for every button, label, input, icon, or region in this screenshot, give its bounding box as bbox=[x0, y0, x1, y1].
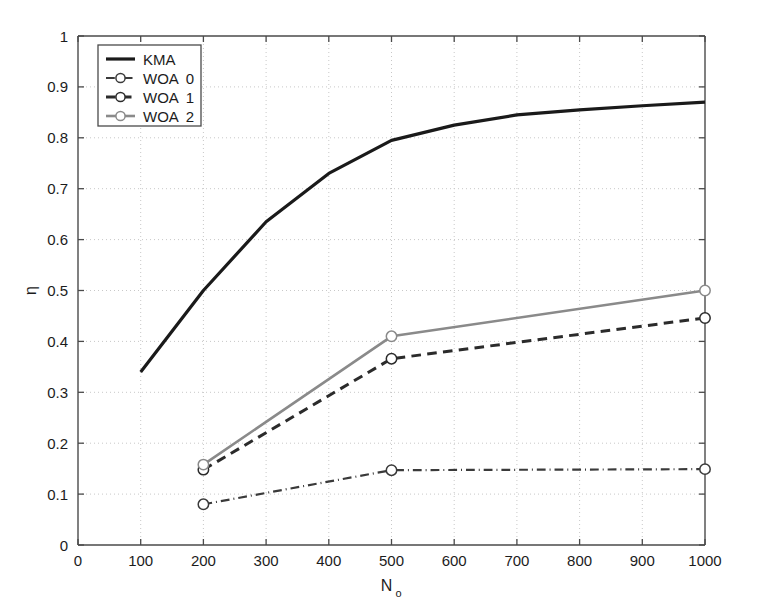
y-tick-label: 0.4 bbox=[47, 333, 68, 350]
y-axis-label-text: η bbox=[22, 286, 39, 295]
data-point-marker bbox=[198, 459, 208, 469]
y-tick-label: 0.7 bbox=[47, 180, 68, 197]
x-tick-label: 500 bbox=[379, 552, 404, 569]
y-tick-label: 0.3 bbox=[47, 384, 68, 401]
x-tick-label: 1000 bbox=[688, 552, 721, 569]
chart-figure: 01002003004005006007008009001000 00.10.2… bbox=[0, 0, 758, 611]
x-tick-label: 900 bbox=[630, 552, 655, 569]
y-tick-label: 0.2 bbox=[47, 435, 68, 452]
legend-label-number: 2 bbox=[186, 108, 194, 125]
y-axis-title: η bbox=[22, 286, 39, 295]
data-point-marker bbox=[386, 465, 396, 475]
y-tick-label: 0.1 bbox=[47, 486, 68, 503]
data-point-marker bbox=[386, 354, 396, 364]
x-tick-label: 400 bbox=[316, 552, 341, 569]
legend-label-text: WOA bbox=[143, 108, 179, 125]
legend-marker-sample bbox=[116, 111, 125, 120]
legend-marker-sample bbox=[116, 92, 125, 101]
legend-label-number: 0 bbox=[186, 70, 194, 87]
x-axis-label-base: N bbox=[381, 577, 393, 594]
data-point-marker bbox=[386, 331, 396, 341]
y-tick-label: 0.8 bbox=[47, 129, 68, 146]
x-tick-label: 0 bbox=[74, 552, 82, 569]
y-tick-label: 1 bbox=[60, 28, 68, 45]
data-point-marker bbox=[700, 285, 710, 295]
y-tick-label: 0.5 bbox=[47, 282, 68, 299]
data-point-marker bbox=[700, 313, 710, 323]
x-tick-label: 200 bbox=[191, 552, 216, 569]
x-tick-label: 700 bbox=[504, 552, 529, 569]
x-tick-label: 300 bbox=[254, 552, 279, 569]
x-tick-label: 600 bbox=[442, 552, 467, 569]
legend-label-number: 1 bbox=[186, 89, 194, 106]
legend-label-text: KMA bbox=[143, 51, 176, 68]
y-tick-label: 0.6 bbox=[47, 231, 68, 248]
line-chart: 01002003004005006007008009001000 00.10.2… bbox=[0, 0, 758, 611]
chart-legend[interactable]: KMAWOA0WOA1WOA2 bbox=[98, 45, 201, 126]
x-axis-label-subscript: o bbox=[395, 587, 401, 599]
legend-label-text: WOA bbox=[143, 70, 179, 87]
x-tick-label: 800 bbox=[567, 552, 592, 569]
data-point-marker bbox=[198, 499, 208, 509]
legend-label-text: WOA bbox=[143, 89, 179, 106]
y-tick-label: 0.9 bbox=[47, 78, 68, 95]
x-tick-label: 100 bbox=[128, 552, 153, 569]
data-point-marker bbox=[700, 464, 710, 474]
y-tick-label: 0 bbox=[60, 537, 68, 554]
legend-marker-sample bbox=[116, 73, 125, 82]
